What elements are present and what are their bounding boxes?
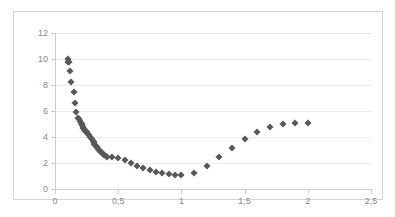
data-point-marker bbox=[292, 120, 299, 127]
x-tick-label: 0,5 bbox=[112, 197, 125, 206]
y-tick-mark bbox=[51, 111, 55, 112]
plot-area bbox=[55, 33, 371, 189]
gridline-y bbox=[55, 163, 371, 164]
data-point-marker bbox=[72, 100, 79, 107]
y-tick-label: 4 bbox=[43, 133, 48, 142]
gridline-y bbox=[55, 59, 371, 60]
chart-frame: 024681012 00,511,522,5 bbox=[13, 11, 383, 200]
y-tick-label: 6 bbox=[43, 107, 48, 116]
data-point-marker bbox=[67, 67, 74, 74]
x-tick-mark bbox=[371, 190, 372, 194]
data-point-marker bbox=[266, 124, 273, 131]
y-tick-mark bbox=[51, 137, 55, 138]
data-point-marker bbox=[190, 169, 197, 176]
y-tick-label: 0 bbox=[43, 185, 48, 194]
data-point-marker bbox=[228, 145, 235, 152]
data-point-marker bbox=[115, 155, 122, 162]
data-point-marker bbox=[254, 129, 261, 136]
gridline-y bbox=[55, 85, 371, 86]
data-point-marker bbox=[279, 120, 286, 127]
x-tick-mark bbox=[245, 190, 246, 194]
x-axis-line bbox=[55, 189, 372, 190]
x-axis-tick-labels: 00,511,522,5 bbox=[14, 197, 384, 211]
gridline-y bbox=[55, 137, 371, 138]
gridline-y bbox=[55, 33, 371, 34]
data-point-marker bbox=[140, 165, 147, 172]
x-tick-mark bbox=[181, 190, 182, 194]
x-tick-label: 1,5 bbox=[238, 197, 251, 206]
y-tick-mark bbox=[51, 33, 55, 34]
x-tick-mark bbox=[308, 190, 309, 194]
y-tick-mark bbox=[51, 59, 55, 60]
data-point-marker bbox=[216, 154, 223, 161]
y-axis-tick-labels: 024681012 bbox=[14, 12, 48, 201]
data-point-marker bbox=[70, 89, 77, 96]
x-tick-label: 2 bbox=[305, 197, 310, 206]
x-tick-label: 1 bbox=[179, 197, 184, 206]
x-tick-mark bbox=[55, 190, 56, 194]
x-tick-mark bbox=[118, 190, 119, 194]
y-tick-label: 8 bbox=[43, 81, 48, 90]
y-tick-label: 12 bbox=[38, 29, 48, 38]
y-tick-label: 2 bbox=[43, 159, 48, 168]
gridline-y bbox=[55, 111, 371, 112]
data-point-marker bbox=[304, 120, 311, 127]
y-axis-line bbox=[55, 33, 56, 190]
y-tick-mark bbox=[51, 85, 55, 86]
y-tick-mark bbox=[51, 163, 55, 164]
x-tick-label: 0 bbox=[52, 197, 57, 206]
y-tick-label: 10 bbox=[38, 55, 48, 64]
x-tick-label: 2,5 bbox=[365, 197, 378, 206]
data-point-marker bbox=[178, 171, 185, 178]
